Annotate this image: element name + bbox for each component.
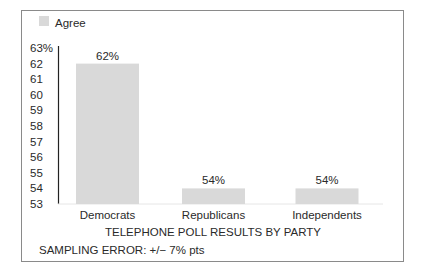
data-label: 54% — [202, 174, 225, 186]
bars: 62%54%54% — [76, 50, 359, 204]
x-axis-tick-labels: DemocratsRepublicansIndependents — [80, 209, 362, 221]
y-tick-label: 57 — [30, 136, 43, 148]
y-tick-label: 60 — [30, 89, 43, 101]
data-label: 54% — [315, 174, 338, 186]
y-tick-label: 59 — [30, 104, 43, 116]
y-tick-label: 55 — [30, 167, 43, 179]
y-tick-label: 53 — [30, 198, 43, 210]
y-tick-label: 58 — [30, 120, 43, 132]
x-tick-label: Republicans — [182, 209, 246, 221]
y-tick-label: 54 — [30, 182, 43, 194]
x-tick-label: Democrats — [80, 209, 136, 221]
x-tick-label: Independents — [292, 209, 362, 221]
y-tick-label: 61 — [30, 73, 43, 85]
legend-swatch-agree — [39, 16, 49, 26]
legend-label-agree: Agree — [55, 17, 86, 29]
legend: Agree — [39, 16, 86, 29]
y-tick-label: 63% — [30, 42, 53, 54]
sampling-error-note: SAMPLING ERROR: +/− 7% pts — [39, 244, 205, 256]
bar-democrats — [76, 64, 139, 204]
bar-independents — [296, 188, 359, 204]
bar-republicans — [182, 188, 245, 204]
y-tick-label: 62 — [30, 58, 43, 70]
bar-chart: Agree 5354555657585960616263% 62%54%54% … — [0, 0, 421, 280]
y-axis-ticks: 5354555657585960616263% — [30, 42, 53, 210]
data-label: 62% — [96, 50, 119, 62]
y-tick-label: 56 — [30, 151, 43, 163]
x-axis-title: TELEPHONE POLL RESULTS BY PARTY — [105, 226, 321, 238]
